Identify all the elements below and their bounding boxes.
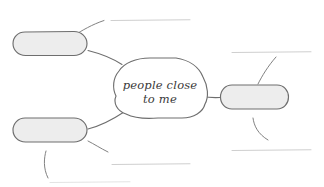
- center-node-label-line-2: to me: [143, 92, 177, 106]
- write-line-top[interactable]: [111, 20, 190, 21]
- node-bottom-left-shape: [13, 118, 87, 142]
- write-line-bottom-left[interactable]: [50, 182, 130, 183]
- node-right-shape: [221, 85, 289, 109]
- node-top-left[interactable]: [13, 32, 87, 56]
- node-bottom-left[interactable]: [13, 118, 87, 142]
- node-top-left-shape: [13, 32, 87, 56]
- node-right[interactable]: [221, 85, 289, 109]
- leader-bottom-left-node-right: [88, 141, 108, 152]
- leader-right-node-upper: [258, 57, 276, 84]
- mind-map-diagram: people close to me: [0, 0, 324, 187]
- leader-bottom-left-node-down: [44, 151, 48, 178]
- write-line-bottom-center[interactable]: [112, 164, 190, 165]
- connector-top-left-to-center: [88, 51, 122, 65]
- center-node[interactable]: people close to me: [114, 58, 208, 118]
- connector-bottom-left-to-center: [88, 112, 124, 129]
- leader-right-node-lower: [253, 118, 268, 140]
- center-node-label-line-1: people close: [123, 78, 198, 92]
- write-line-right-upper[interactable]: [232, 52, 311, 53]
- write-line-right-lower[interactable]: [232, 150, 311, 151]
- mind-map-worksheet: people close to me: [0, 0, 324, 187]
